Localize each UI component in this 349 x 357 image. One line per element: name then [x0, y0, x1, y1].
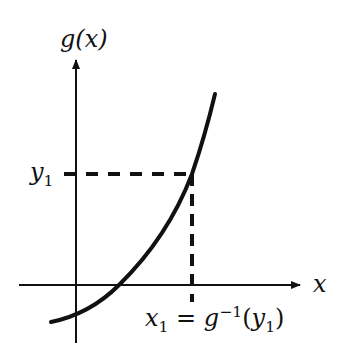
- y-axis-label: g(x): [60, 27, 108, 51]
- inverse-function-diagram: g(x) x y1 x1 = g−1(y1): [0, 0, 349, 357]
- x-axis-label: x: [313, 272, 327, 296]
- x1-inverse-label: x1 = g−1(y1): [145, 305, 284, 335]
- y1-label: y1: [30, 160, 53, 189]
